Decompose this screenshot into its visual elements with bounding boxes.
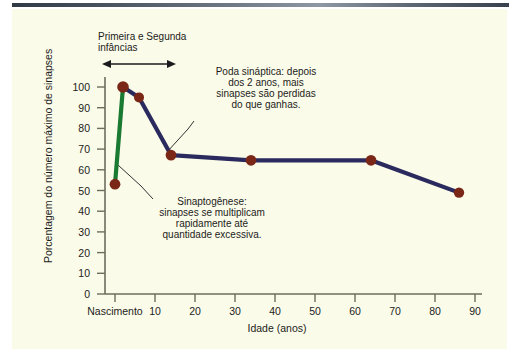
figure-panel: 100 90 80 70 60 50 40 30 20 10 0 Nascime… [12, 9, 507, 349]
y-axis-ticks [97, 87, 105, 294]
y-tick-label: 90 [60, 102, 90, 114]
annotation-pruning-line-3: sinapses são perdidas [190, 88, 342, 99]
x-tick-label: 50 [305, 305, 325, 317]
annotation-pruning-line-2: dos 2 anos, mais [190, 77, 342, 88]
synaptogenesis-annotation-leader-line [118, 165, 153, 199]
x-axis-ticks [115, 294, 475, 302]
y-tick-label: 10 [60, 267, 90, 279]
annotation-synaptogenesis-line-1: Sinaptogênese: [132, 196, 292, 207]
annotation-synaptic-pruning: Poda sináptica: depois dos 2 anos, mais … [190, 66, 342, 110]
annotation-synaptogenesis-line-2: sinapses se multiplicam [132, 207, 292, 218]
x-axis-title: Idade (anos) [162, 322, 392, 334]
annotation-pruning-line-4: do que ganhas. [190, 99, 342, 110]
y-tick-label: 30 [60, 226, 90, 238]
y-tick-label: 50 [60, 185, 90, 197]
x-tick-label: 90 [465, 305, 485, 317]
x-tick-label: 10 [145, 305, 165, 317]
annotation-synaptogenesis-line-4: quantidade excessiva. [132, 229, 292, 240]
x-tick-label-nascimento: Nascimento [82, 305, 148, 317]
annotation-period-label: Primeira e Segunda infâncias [98, 31, 248, 53]
x-tick-label: 60 [345, 305, 365, 317]
x-tick-label: 20 [185, 305, 205, 317]
data-point-marker [454, 187, 464, 197]
data-point-marker [246, 155, 257, 166]
data-point-marker [134, 92, 144, 102]
y-tick-label: 40 [60, 205, 90, 217]
annotation-period-line-1: Primeira e Segunda [98, 31, 248, 42]
pruning-annotation-leader-line [167, 121, 194, 152]
annotation-period-line-2: infâncias [98, 42, 248, 53]
y-tick-label: 0 [60, 288, 90, 300]
data-point-marker [166, 150, 177, 161]
annotation-synaptogenesis-line-3: rapidamente até [132, 218, 292, 229]
annotation-synaptogenesis: Sinaptogênese: sinapses se multiplicam r… [132, 196, 292, 240]
y-tick-label: 60 [60, 164, 90, 176]
x-tick-label: 80 [425, 305, 445, 317]
x-tick-label: 70 [385, 305, 405, 317]
scan-edge-artifact [12, 3, 509, 7]
x-tick-label: 40 [265, 305, 285, 317]
x-tick-label: 30 [225, 305, 245, 317]
y-tick-label: 100 [60, 81, 90, 93]
y-tick-label: 80 [60, 122, 90, 134]
y-axis-title: Porcentagem do número máximo de sinapses [42, 63, 54, 263]
data-point-marker [117, 81, 129, 93]
period-bracket-arrow [102, 60, 176, 68]
data-point-marker [366, 155, 377, 166]
annotation-pruning-line-1: Poda sináptica: depois [190, 66, 342, 77]
y-tick-label: 70 [60, 143, 90, 155]
data-point-marker [110, 179, 121, 190]
y-tick-label: 20 [60, 247, 90, 259]
series-synaptogenesis-line [115, 87, 123, 184]
